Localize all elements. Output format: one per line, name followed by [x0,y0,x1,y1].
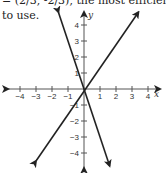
svg-text:−2: −2 [47,92,57,101]
x-axis-label: x [154,89,159,99]
svg-text:−3: −3 [31,92,41,101]
line-2 [36,12,138,161]
svg-text:−1: −1 [63,92,73,101]
svg-text:−2: −2 [70,117,80,126]
svg-text:2: 2 [114,92,119,101]
svg-text:3: 3 [75,37,80,46]
svg-text:4: 4 [146,92,151,101]
coordinate-graph: −4−3−2−112344321−1−2−3−4 x y [0,0,166,173]
svg-text:−4: −4 [15,92,25,101]
svg-text:−3: −3 [70,133,80,142]
svg-text:−4: −4 [70,149,80,158]
svg-text:3: 3 [130,92,135,101]
svg-text:1: 1 [98,92,103,101]
svg-text:4: 4 [75,21,80,30]
y-axis-label: y [87,10,94,20]
